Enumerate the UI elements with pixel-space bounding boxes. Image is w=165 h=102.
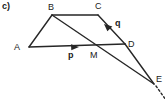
geometry-diagram bbox=[0, 0, 165, 102]
part-label: c) bbox=[2, 2, 10, 11]
segment-AB bbox=[29, 15, 52, 47]
vector-label-q: q bbox=[115, 19, 121, 28]
vertex-label-A: A bbox=[14, 43, 20, 52]
segment-DE bbox=[125, 44, 154, 84]
vertex-label-D: D bbox=[128, 40, 135, 49]
vertex-label-B: B bbox=[48, 3, 54, 12]
vertex-label-E: E bbox=[156, 75, 162, 84]
vector-label-p: p bbox=[68, 51, 74, 60]
vertex-label-C: C bbox=[95, 2, 102, 11]
segment-CD bbox=[98, 15, 125, 44]
vertex-label-M: M bbox=[90, 51, 98, 60]
figure-container: c) A B C D M E p q bbox=[0, 0, 165, 102]
dashed-extension-beyond-E-icon bbox=[156, 86, 165, 100]
